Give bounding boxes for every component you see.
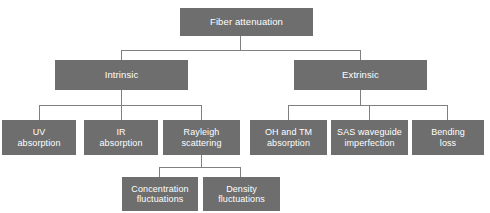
connector-to-concentration-fluctuations bbox=[159, 167, 160, 177]
connector-intrinsic-bus bbox=[39, 105, 202, 106]
node-intrinsic[interactable]: Intrinsic bbox=[55, 60, 188, 90]
node-density-fluctuations[interactable]: Density fluctuations bbox=[203, 177, 280, 211]
node-fiber-attenuation[interactable]: Fiber attenuation bbox=[180, 8, 313, 36]
connector-rayleigh-bus bbox=[159, 167, 241, 168]
connector-to-bending-loss bbox=[447, 105, 448, 120]
fiber-attenuation-diagram: Fiber attenuation Intrinsic Extrinsic UV… bbox=[0, 0, 490, 213]
node-concentration-fluctuations[interactable]: Concentration fluctuations bbox=[122, 177, 198, 211]
connector-to-oh-tm-absorption bbox=[288, 105, 289, 120]
connector-to-rayleigh-scattering bbox=[201, 105, 202, 120]
node-sas-waveguide-imperfection[interactable]: SAS waveguide imperfection bbox=[331, 120, 408, 155]
connector-to-ir-absorption bbox=[121, 105, 122, 120]
node-extrinsic[interactable]: Extrinsic bbox=[294, 60, 427, 90]
connector-to-sas-waveguide-imperfection bbox=[369, 105, 370, 120]
node-ir-absorption[interactable]: IR absorption bbox=[84, 120, 158, 155]
node-rayleigh-scattering[interactable]: Rayleigh scattering bbox=[163, 120, 240, 155]
connector-extrinsic-stem bbox=[360, 90, 361, 105]
node-oh-and-tm-absorption[interactable]: OH and TM absorption bbox=[250, 120, 327, 155]
connector-rayleigh-stem bbox=[201, 155, 202, 167]
node-bending-loss[interactable]: Bending loss bbox=[412, 120, 484, 155]
connector-to-intrinsic bbox=[121, 50, 122, 60]
connector-to-extrinsic bbox=[360, 50, 361, 60]
connector-to-density-fluctuations bbox=[240, 167, 241, 177]
connector-level2-bus bbox=[121, 50, 361, 51]
connector-extrinsic-bus bbox=[288, 105, 448, 106]
connector-root-stem bbox=[240, 36, 241, 50]
node-uv-absorption[interactable]: UV absorption bbox=[2, 120, 76, 155]
connector-to-uv-absorption bbox=[39, 105, 40, 120]
connector-intrinsic-stem bbox=[121, 90, 122, 105]
